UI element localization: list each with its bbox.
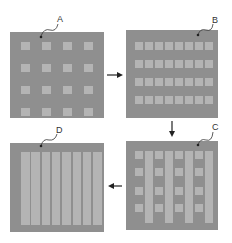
- connectors: [0, 0, 232, 243]
- leader-a: [41, 24, 58, 36]
- arrow-head-b-to-c: [169, 131, 175, 137]
- leader-dot-a: [40, 36, 43, 39]
- arrow-head-c-to-d: [108, 183, 114, 189]
- leader-b: [198, 24, 213, 35]
- leader-dot-b: [197, 34, 200, 37]
- arrow-head-a-to-b: [117, 72, 123, 78]
- leader-dot-c: [197, 144, 200, 147]
- leader-d: [41, 134, 57, 146]
- leader-c: [198, 132, 213, 145]
- leader-dot-d: [40, 145, 43, 148]
